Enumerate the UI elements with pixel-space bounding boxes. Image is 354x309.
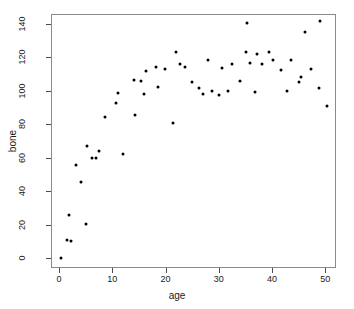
data-point (104, 115, 107, 118)
x-axis-tick-label-text: 30 (214, 275, 224, 284)
data-point (198, 86, 201, 89)
x-axis-tick-label-text: 0 (56, 275, 61, 284)
y-axis-tick-label-text: 20 (18, 220, 27, 230)
data-point (227, 90, 230, 93)
data-point (91, 157, 94, 160)
y-axis-tick-label-text: 100 (18, 83, 27, 98)
data-point (179, 63, 182, 66)
data-point (319, 20, 322, 23)
x-axis-tick-label-text: 40 (267, 275, 277, 284)
data-point (132, 78, 135, 81)
data-point (191, 80, 194, 83)
data-point (175, 51, 178, 54)
data-point (74, 163, 77, 166)
y-axis-tick-label-text: 0 (18, 255, 27, 260)
data-point (157, 85, 160, 88)
data-point (207, 59, 210, 62)
data-point (164, 68, 167, 71)
x-axis-title: age (0, 290, 354, 301)
data-point (256, 53, 259, 56)
y-axis-title: bone (7, 130, 18, 152)
data-point (299, 76, 302, 79)
data-point (260, 63, 263, 66)
data-point (310, 68, 313, 71)
scatter-plot-figure: 020406080100120140 01020304050 age bone (0, 0, 354, 309)
data-point (211, 89, 214, 92)
data-point (220, 66, 223, 69)
x-axis-tick (112, 268, 113, 273)
data-point (279, 68, 282, 71)
x-axis-tick-label-text: 10 (107, 275, 117, 284)
data-points-layer (52, 15, 335, 267)
data-point (65, 239, 68, 242)
data-point (117, 92, 120, 95)
data-point (231, 63, 234, 66)
data-point (244, 51, 247, 54)
data-point (95, 157, 98, 160)
data-point (183, 65, 186, 68)
data-point (268, 51, 271, 54)
data-point (121, 153, 124, 156)
x-axis-tick-label-text: 20 (161, 275, 171, 284)
data-point (69, 240, 72, 243)
data-point (303, 30, 306, 33)
x-axis-tick (59, 268, 60, 273)
x-axis-tick (166, 268, 167, 273)
data-point (217, 94, 220, 97)
data-point (60, 257, 63, 260)
data-point (85, 145, 88, 148)
data-point (84, 223, 87, 226)
data-point (285, 89, 288, 92)
plot-area (51, 14, 336, 268)
x-axis-tick-label-text: 50 (320, 275, 330, 284)
data-point (140, 80, 143, 83)
data-point (290, 58, 293, 61)
y-axis-tick-label-text: 80 (18, 119, 27, 129)
data-point (144, 70, 147, 73)
data-point (239, 79, 242, 82)
data-point (134, 114, 137, 117)
data-point (245, 21, 248, 24)
x-axis-tick (219, 268, 220, 273)
y-axis-tick-label-text: 60 (18, 153, 27, 163)
data-point (155, 65, 158, 68)
data-point (271, 58, 274, 61)
x-axis-tick (325, 268, 326, 273)
data-point (297, 80, 300, 83)
data-point (248, 61, 251, 64)
data-point (317, 86, 320, 89)
data-point (79, 180, 82, 183)
data-point (202, 93, 205, 96)
data-point (326, 104, 329, 107)
data-point (115, 101, 118, 104)
data-point (98, 150, 101, 153)
data-point (142, 93, 145, 96)
y-axis-tick-label-text: 120 (18, 50, 27, 65)
data-point (253, 91, 256, 94)
data-point (67, 213, 70, 216)
data-point (172, 121, 175, 124)
y-axis-tick-label-text: 40 (18, 186, 27, 196)
y-axis-tick-label-text: 140 (18, 17, 27, 32)
x-axis-tick (272, 268, 273, 273)
